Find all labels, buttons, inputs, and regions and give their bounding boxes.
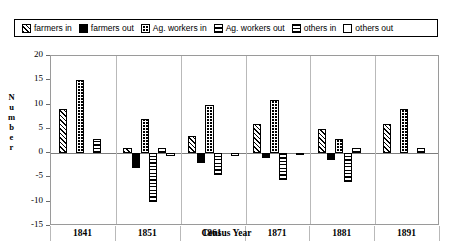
y-tick-label: 0	[19, 147, 43, 156]
y-tick-label: -5	[19, 171, 43, 180]
bar-ag-workers-out-1871	[279, 153, 287, 180]
legend-label: farmers out	[91, 24, 134, 33]
bar-farmers-out-1861	[197, 153, 205, 163]
bar-ag-workers-in-1891	[400, 109, 408, 153]
legend-item-others-out: others out	[336, 24, 393, 33]
legend-item-farmers-in: farmers in	[15, 24, 72, 33]
y-tick-label: 10	[19, 99, 43, 108]
bar-ag-workers-in-1841	[76, 80, 84, 153]
y-axis-title: Number	[5, 92, 18, 152]
legend-label: farmers in	[34, 24, 72, 33]
y-axis-title-letter: b	[5, 122, 18, 132]
plot-area	[50, 55, 439, 225]
bar-farmers-in-1851	[123, 148, 131, 153]
legend-swatch-others-in-icon	[292, 24, 301, 33]
legend-label: others in	[304, 24, 337, 33]
group-separator	[375, 56, 376, 224]
chart-legend: farmers infarmers outAg. workers inAg. w…	[14, 19, 438, 37]
legend-label: others out	[355, 24, 393, 33]
bar-farmers-out-1851	[132, 153, 140, 168]
y-axis-title-letter: N	[5, 92, 18, 102]
legend-item-farmers-out: farmers out	[72, 24, 134, 33]
bar-farmers-out-1881	[327, 153, 335, 160]
y-axis-title-letter: u	[5, 102, 18, 112]
y-tick-label: 20	[19, 50, 43, 59]
bar-others-in-1851	[158, 148, 166, 153]
group-separator	[116, 56, 117, 224]
y-tick-label: -10	[19, 196, 43, 205]
bar-farmers-in-1891	[383, 124, 391, 153]
bar-ag-workers-out-1851	[149, 153, 157, 202]
bar-ag-workers-in-1881	[335, 139, 343, 154]
group-separator	[310, 56, 311, 224]
y-axis-title-letter: r	[5, 142, 18, 152]
bar-others-out-1851	[166, 153, 174, 156]
bar-farmers-in-1871	[253, 124, 261, 153]
y-axis-title-letter: m	[5, 112, 18, 122]
legend-item-ag-workers-in: Ag. workers in	[134, 24, 207, 33]
bar-ag-workers-in-1851	[141, 119, 149, 153]
y-axis-title-letter: e	[5, 132, 18, 142]
bar-others-in-1891	[417, 148, 425, 153]
legend-swatch-ag-workers-out-icon	[214, 24, 223, 33]
group-separator	[246, 56, 247, 224]
legend-swatch-farmers-out-icon	[79, 24, 88, 33]
group-separator	[181, 56, 182, 224]
bar-farmers-in-1861	[188, 136, 196, 153]
x-axis-title: Census Year	[0, 228, 453, 238]
y-tick-label: 15	[19, 74, 43, 83]
chart-container: farmers infarmers outAg. workers inAg. w…	[0, 0, 453, 241]
bar-farmers-in-1841	[59, 109, 67, 153]
legend-label: Ag. workers in	[153, 24, 207, 33]
bar-ag-workers-in-1871	[270, 100, 278, 153]
bar-ag-workers-out-1881	[344, 153, 352, 182]
y-tick-label: 5	[19, 123, 43, 132]
bar-ag-workers-out-1861	[214, 153, 222, 175]
legend-label: Ag. workers out	[226, 24, 285, 33]
legend-swatch-others-out-icon	[343, 24, 352, 33]
legend-swatch-ag-workers-in-icon	[141, 24, 150, 33]
bar-farmers-out-1871	[262, 153, 270, 158]
bar-ag-workers-in-1861	[205, 105, 213, 154]
legend-item-others-in: others in	[285, 24, 337, 33]
bar-others-out-1861	[231, 153, 239, 156]
legend-item-ag-workers-out: Ag. workers out	[207, 24, 285, 33]
bar-others-out-1871	[296, 153, 304, 155]
bar-farmers-in-1881	[318, 129, 326, 153]
zero-baseline	[51, 153, 438, 154]
legend-swatch-farmers-in-icon	[22, 24, 31, 33]
bar-others-in-1841	[93, 139, 101, 154]
bar-others-in-1881	[352, 148, 360, 153]
